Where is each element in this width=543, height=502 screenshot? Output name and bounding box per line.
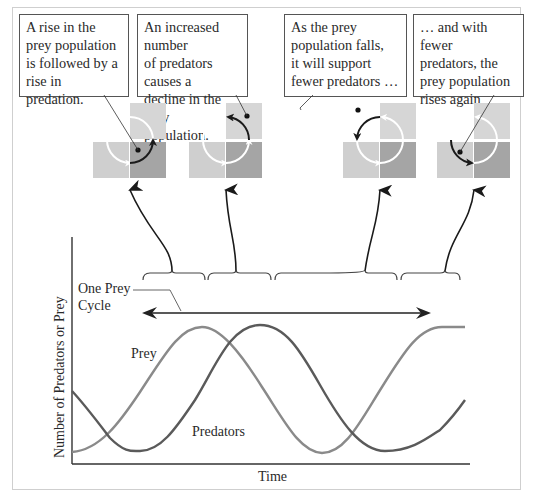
- phase-diagram-2: [189, 95, 262, 178]
- cycle-label-line2: Cycle: [78, 297, 131, 314]
- diagram-graphics: [0, 0, 543, 502]
- cycle-label-line1: One Prey: [78, 280, 131, 297]
- cycle-phase-braces: [143, 270, 460, 280]
- predators-series-label: Predators: [192, 423, 245, 440]
- phase-diagram-3: [300, 95, 416, 178]
- x-axis-label: Time: [258, 468, 287, 485]
- phase-diagram-1: [93, 95, 166, 178]
- one-prey-cycle-label: One Prey Cycle: [78, 280, 131, 314]
- prey-series-label: Prey: [131, 345, 157, 362]
- y-axis-label: Number of Predators or Prey: [52, 296, 68, 458]
- phase-pointer-arrows: [130, 190, 474, 271]
- predators-curve: [72, 325, 465, 451]
- phase-diagram-4: [437, 95, 510, 178]
- one-prey-cycle-arrow: [133, 290, 431, 319]
